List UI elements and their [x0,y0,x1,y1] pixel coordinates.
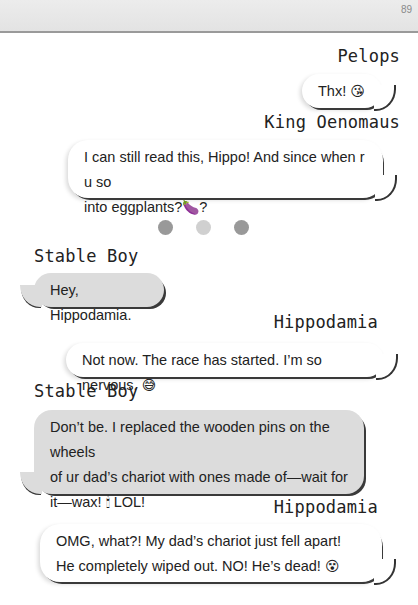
message-bubble-incoming: Hey, Hippodamia. [34,273,164,307]
sender-name: Pelops [337,46,400,66]
message-text-line: Don’t be. I replaced the wooden pins on … [50,415,348,465]
message-bubble-outgoing: Thx! 😘 [302,74,382,108]
dizzy-face-emoji-icon: 😵 [325,558,340,574]
sender-name: King Oenomaus [264,112,400,132]
page-header-band: 89 [0,0,418,33]
dot-icon [158,220,173,235]
dot-icon [196,220,211,235]
dot-icon [234,220,249,235]
nervous-grin-emoji-icon: 😅 [142,377,157,393]
sender-name: Stable Boy [34,381,138,401]
typing-dots-divider [158,220,249,235]
message-bubble-outgoing: I can still read this, Hippo! And since … [68,140,383,198]
kiss-emoji-icon: 😘 [350,83,365,99]
message-text-line: OMG, what?! My dad’s chariot just fell a… [56,529,366,554]
message-text-suffix: LOL! [110,494,145,510]
sender-name: Stable Boy [34,246,138,266]
page-number: 89 [401,4,412,15]
sender-name: Hippodamia [274,312,378,332]
message-text-suffix: ? [199,199,207,215]
eggplant-emoji-icon: 🍆 [182,199,199,215]
message-text-line: of ur dad’s chariot with ones made of—wa… [50,465,348,490]
message-text-line: He completely wiped out. NO! He’s dead! [56,558,321,574]
message-bubble-incoming: Don’t be. I replaced the wooden pins on … [34,410,364,494]
message-text-line: it—wax! [50,494,102,510]
message-bubble-outgoing: Not now. The race has started. I’m so ne… [66,343,384,377]
sender-name: Hippodamia [274,497,378,517]
message-text-line: into eggplants? [84,199,182,215]
message-text: Hey, Hippodamia. [50,282,131,323]
message-bubble-outgoing: OMG, what?! My dad’s chariot just fell a… [40,524,382,582]
message-text: Thx! [318,83,346,99]
message-text-line: I can still read this, Hippo! And since … [84,145,367,195]
